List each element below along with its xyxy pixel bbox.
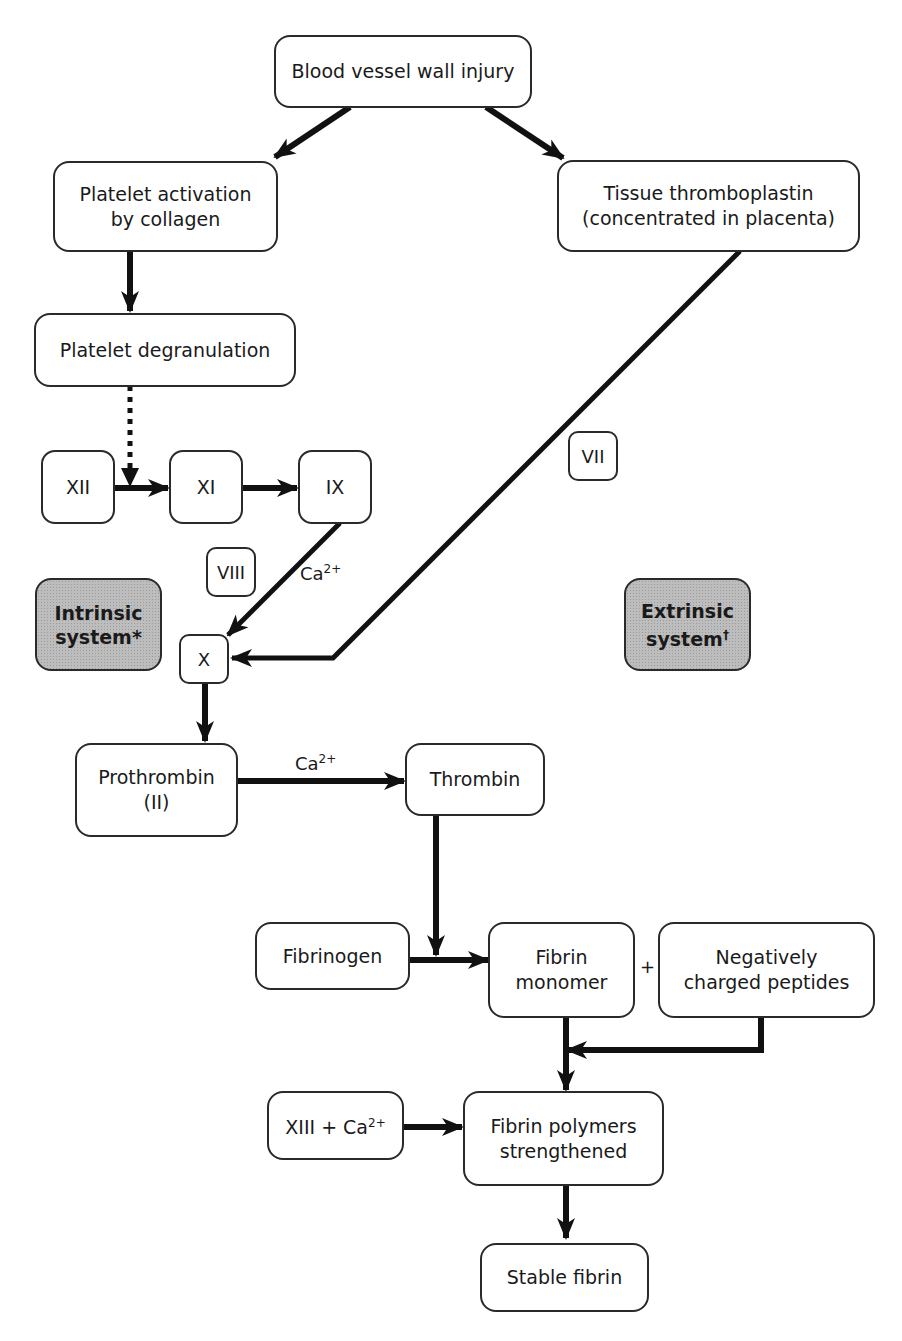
node-text: by collagen [111, 207, 220, 232]
node-text: Platelet degranulation [60, 338, 271, 363]
node-text: strengthened [500, 1139, 628, 1164]
node-xiii-calcium: XIII + Ca2+ [267, 1091, 404, 1160]
footnote-mark: * [132, 626, 142, 648]
node-text: system† [646, 623, 729, 651]
node-text: Negatively [716, 945, 818, 970]
node-text: XIII + Ca2+ [285, 1111, 385, 1140]
node-text-part: XIII + Ca [285, 1116, 368, 1138]
node-negatively-charged-peptides: Negatively charged peptides [658, 922, 875, 1018]
node-text: Intrinsic [54, 601, 142, 625]
node-text: charged peptides [684, 970, 850, 995]
node-text: Prothrombin [98, 765, 215, 790]
dotted-arrow-degranulation-to-xii-xi [121, 386, 139, 487]
node-text: VII [582, 444, 605, 469]
plus-sign: + [640, 956, 655, 977]
node-text: Extrinsic [641, 599, 734, 623]
node-factor-xii: XII [41, 450, 115, 524]
node-text: VIII [217, 560, 245, 585]
node-factor-xi: XI [169, 450, 243, 524]
node-text: IX [326, 475, 345, 500]
node-text: Stable fibrin [507, 1265, 622, 1290]
node-intrinsic-system: Intrinsic system* [35, 578, 162, 671]
node-text: XII [66, 475, 90, 500]
node-text: monomer [516, 970, 608, 995]
calcium-label-ix-to-x: Ca2+ [300, 562, 341, 584]
node-text: X [198, 647, 210, 672]
label-text: Ca [295, 753, 319, 774]
label-text: Ca [300, 563, 324, 584]
superscript: 2+ [319, 752, 337, 766]
node-text: Fibrin [535, 945, 587, 970]
node-fibrinogen: Fibrinogen [255, 922, 410, 990]
node-text: Fibrin polymers [490, 1114, 636, 1139]
node-text: (concentrated in placenta) [582, 206, 835, 231]
footnote-mark: † [723, 628, 729, 642]
superscript: 2+ [368, 1116, 386, 1130]
node-fibrin-monomer: Fibrin monomer [488, 922, 635, 1018]
node-blood-vessel-wall-injury: Blood vessel wall injury [274, 35, 532, 108]
node-platelet-degranulation: Platelet degranulation [34, 313, 296, 387]
node-text: Platelet activation [79, 182, 251, 207]
node-text: Tissue thromboplastin [603, 181, 813, 206]
node-text: Blood vessel wall injury [292, 59, 515, 84]
node-text: system* [55, 625, 142, 649]
node-prothrombin: Prothrombin (II) [75, 743, 238, 837]
calcium-label-prothrombin-to-thrombin: Ca2+ [295, 752, 336, 774]
arrow-peptides-join [567, 1017, 761, 1050]
node-extrinsic-system: Extrinsic system† [624, 578, 751, 671]
node-factor-x: X [179, 634, 229, 684]
node-text-part: system [55, 626, 132, 648]
node-stable-fibrin: Stable fibrin [480, 1243, 649, 1312]
node-text-part: system [646, 628, 723, 650]
node-tissue-thromboplastin: Tissue thromboplastin (concentrated in p… [557, 160, 860, 252]
node-factor-vii: VII [568, 431, 618, 481]
arrow-injury-to-tissue-thromboplastin [486, 107, 563, 158]
node-platelet-activation: Platelet activation by collagen [53, 161, 278, 252]
node-thrombin: Thrombin [405, 743, 545, 816]
node-text: (II) [143, 790, 169, 815]
superscript: 2+ [324, 562, 342, 576]
node-fibrin-polymers-strengthened: Fibrin polymers strengthened [463, 1091, 664, 1186]
node-text: XI [197, 475, 216, 500]
node-factor-ix: IX [298, 450, 372, 524]
arrow-injury-to-platelet-activation [275, 107, 350, 157]
node-factor-viii: VIII [206, 547, 256, 597]
node-text: Fibrinogen [283, 944, 382, 969]
node-text: Thrombin [430, 767, 521, 792]
